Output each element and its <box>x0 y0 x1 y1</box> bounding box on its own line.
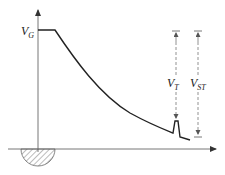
label-vst: VST <box>190 76 206 92</box>
label-vg: VG <box>21 24 34 40</box>
vt-measurement <box>172 31 180 118</box>
label-vt: VT <box>167 76 179 92</box>
waveform-diagram: VG VT VST <box>0 0 225 175</box>
